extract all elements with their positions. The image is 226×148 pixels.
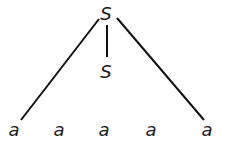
node-root-s: S — [100, 5, 111, 23]
leaf-a-1: a — [8, 121, 19, 139]
edge-root-left-leaf — [21, 19, 99, 120]
edge-root-right-leaf — [117, 18, 204, 120]
leaf-a-5: a — [201, 121, 212, 139]
leaf-a-3: a — [98, 121, 109, 139]
node-middle-s: S — [100, 63, 111, 81]
tree-edges — [0, 0, 226, 148]
leaf-a-2: a — [53, 121, 64, 139]
leaf-a-4: a — [145, 121, 156, 139]
